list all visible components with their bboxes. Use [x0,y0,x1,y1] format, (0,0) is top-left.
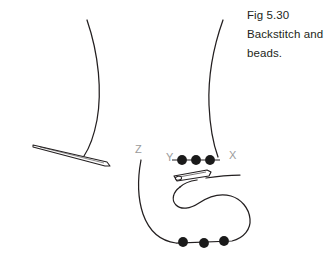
point-label-z: Z [135,144,142,155]
bead-bottom-2 [199,238,209,248]
threaded-needle [174,170,211,181]
caption-line-1: Fig 5.30 [247,6,331,25]
bead-top-3 [205,155,215,165]
bead-bottom-1 [178,237,188,247]
loose-needle [33,145,110,166]
needle-eye [175,176,182,181]
thread-needle-link [180,180,197,187]
figure-caption: Fig 5.30 Backstitch and beads. [247,6,331,63]
thread-tail-right [206,175,240,178]
bead-bottom-3 [219,236,229,246]
figure-backstitch-and-beads: Z Y X Fig 5.30 Backstitch and beads. [0,0,332,271]
bead-top-2 [191,155,201,165]
caption-line-2: Backstitch and [247,25,331,44]
bead-top-1 [177,155,187,165]
point-label-x: X [229,150,236,161]
fabric-edge-right-curve [209,20,223,157]
point-label-y: Y [166,152,173,163]
fabric-edge-left-curve [84,20,99,156]
caption-line-3: beads. [247,44,331,63]
